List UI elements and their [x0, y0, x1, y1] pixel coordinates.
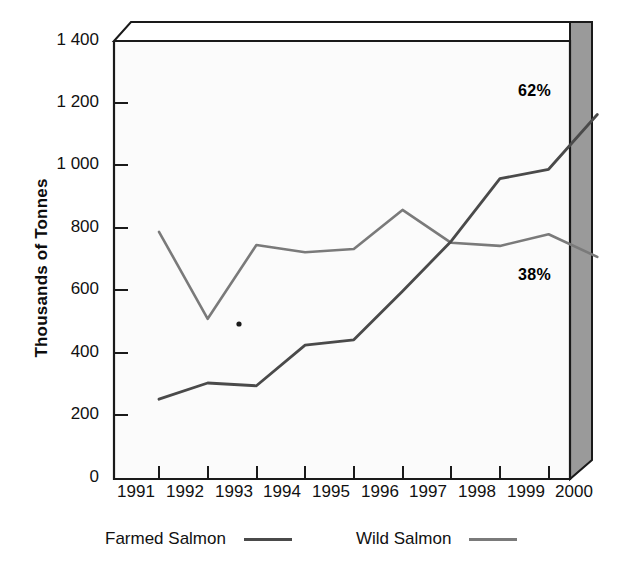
x-tick-label-1991: 1991: [110, 482, 162, 502]
y-tick-label-1000: 1 000: [35, 154, 99, 174]
legend-label-wild-salmon: Wild Salmon: [356, 529, 451, 549]
legend-entry-farmed-salmon: Farmed Salmon: [105, 529, 292, 549]
legend-swatch-farmed-salmon: [244, 538, 292, 541]
x-tick-label-1999: 1999: [500, 482, 552, 502]
annotation-wild-percent: 38%: [518, 266, 551, 284]
legend-swatch-wild-salmon: [469, 538, 517, 541]
legend-label-farmed-salmon: Farmed Salmon: [105, 529, 226, 549]
y-tick-label-1200: 1 200: [35, 92, 99, 112]
plot-background: [114, 41, 570, 479]
x-tick-label-2000: 2000: [548, 482, 600, 502]
legend-entry-wild-salmon: Wild Salmon: [356, 529, 517, 549]
y-tick-label-800: 800: [35, 217, 99, 237]
x-tick-label-1998: 1998: [451, 482, 503, 502]
x-tick-label-1995: 1995: [305, 482, 357, 502]
scan-speck: [236, 321, 241, 326]
y-tick-label-600: 600: [35, 279, 99, 299]
x-tick-label-1996: 1996: [354, 482, 406, 502]
y-tick-label-200: 200: [35, 404, 99, 424]
x-tick-label-1997: 1997: [402, 482, 454, 502]
y-tick-label-1400: 1 400: [35, 30, 99, 50]
plot-top-face: [114, 22, 570, 41]
y-tick-label-400: 400: [35, 342, 99, 362]
x-tick-label-1992: 1992: [159, 482, 211, 502]
annotation-farmed-percent: 62%: [518, 82, 551, 100]
chart-legend: Farmed Salmon Wild Salmon: [105, 524, 575, 554]
x-tick-label-1994: 1994: [256, 482, 308, 502]
x-tick-label-1993: 1993: [208, 482, 260, 502]
salmon-production-chart: Thousands of Tonnes 1 400 1 200 1 000 80…: [0, 0, 620, 567]
y-tick-label-0: 0: [35, 467, 99, 487]
